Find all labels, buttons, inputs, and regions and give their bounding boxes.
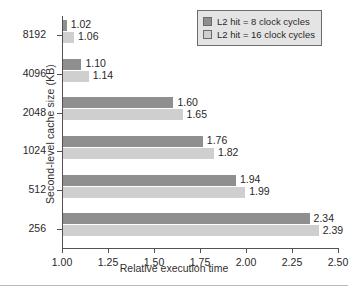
y-axis-tick-label: 256 — [0, 222, 46, 234]
bar-series-1-category-256 — [63, 225, 319, 236]
bar-series-0-category-512 — [63, 175, 236, 186]
legend-entry-1: L2 hit = 16 clock cycles — [203, 28, 315, 41]
x-axis-tick — [154, 248, 155, 253]
y-axis-tick — [57, 190, 62, 191]
legend-swatch-icon-series-1 — [203, 30, 212, 39]
bar-series-0-category-4096 — [63, 59, 81, 70]
y-axis-tick — [57, 74, 62, 75]
bar-value-label-series-1-category-256: 2.39 — [323, 224, 343, 236]
legend-label-series-0: L2 hit = 8 clock cycles — [217, 16, 310, 27]
bar-value-label-series-0-category-2048: 1.60 — [177, 96, 197, 108]
x-axis-title: Relative execution time — [0, 262, 348, 274]
y-axis-tick-label: 8192 — [0, 28, 46, 40]
y-axis-title: Second-level cache size (KB) — [44, 24, 56, 244]
bar-value-label-series-1-category-512: 1.99 — [249, 185, 269, 197]
x-axis-tick — [246, 248, 247, 253]
legend-swatch-icon-series-0 — [203, 17, 212, 26]
x-axis-tick — [108, 248, 109, 253]
x-axis-tick — [338, 248, 339, 253]
bar-series-0-category-1024 — [63, 136, 203, 147]
y-axis-tick — [57, 35, 62, 36]
y-axis-tick-label: 2048 — [0, 106, 46, 118]
y-axis-tick-label: 4096 — [0, 67, 46, 79]
bar-series-1-category-512 — [63, 187, 245, 198]
bar-series-0-category-8192 — [63, 20, 67, 31]
bar-series-1-category-4096 — [63, 71, 89, 82]
y-axis-tick — [57, 113, 62, 114]
bar-value-label-series-0-category-512: 1.94 — [240, 173, 260, 185]
bar-value-label-series-0-category-256: 2.34 — [314, 212, 334, 224]
bar-series-1-category-8192 — [63, 32, 74, 43]
bar-series-0-category-256 — [63, 213, 310, 224]
bar-value-label-series-0-category-4096: 1.10 — [85, 57, 105, 69]
y-axis-tick — [57, 151, 62, 152]
plot-area: 1.001.251.501.752.002.252.5081921.021.06… — [62, 16, 338, 248]
y-axis-tick — [57, 229, 62, 230]
x-axis-tick — [200, 248, 201, 253]
bar-series-0-category-2048 — [63, 97, 173, 108]
legend-entry-0: L2 hit = 8 clock cycles — [203, 15, 315, 28]
bar-series-1-category-2048 — [63, 109, 183, 120]
bar-value-label-series-0-category-1024: 1.76 — [207, 134, 227, 146]
bar-value-label-series-0-category-8192: 1.02 — [71, 18, 91, 30]
legend-label-series-1: L2 hit = 16 clock cycles — [217, 29, 315, 40]
chart-legend: L2 hit = 8 clock cycles L2 hit = 16 cloc… — [197, 10, 322, 46]
bar-series-1-category-1024 — [63, 148, 214, 159]
y-axis-tick-label: 1024 — [0, 144, 46, 156]
x-axis-tick — [292, 248, 293, 253]
bar-value-label-series-1-category-2048: 1.65 — [187, 108, 207, 120]
bar-value-label-series-1-category-1024: 1.82 — [218, 146, 238, 158]
x-axis-tick — [62, 248, 63, 253]
bar-value-label-series-1-category-4096: 1.14 — [93, 69, 113, 81]
y-axis-tick-label: 512 — [0, 183, 46, 195]
page-divider-rule — [0, 285, 348, 286]
bar-value-label-series-1-category-8192: 1.06 — [78, 30, 98, 42]
